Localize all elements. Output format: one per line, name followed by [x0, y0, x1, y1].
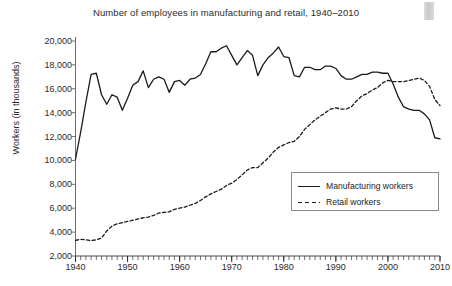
chart-page: Number of employees in manufacturing and…: [0, 0, 452, 286]
series-line-manufacturing-workers: [76, 46, 441, 159]
legend-item-retail: Retail workers: [298, 194, 432, 210]
legend-label-manufacturing: Manufacturing workers: [326, 181, 413, 191]
legend-line-solid-icon: [298, 182, 320, 190]
chart-legend: Manufacturing workers Retail workers: [291, 172, 439, 211]
plot-area: [0, 0, 452, 286]
series-line-retail-workers: [76, 78, 441, 240]
legend-label-retail: Retail workers: [326, 197, 380, 207]
legend-line-dashed-icon: [298, 198, 320, 206]
legend-item-manufacturing: Manufacturing workers: [298, 178, 432, 194]
